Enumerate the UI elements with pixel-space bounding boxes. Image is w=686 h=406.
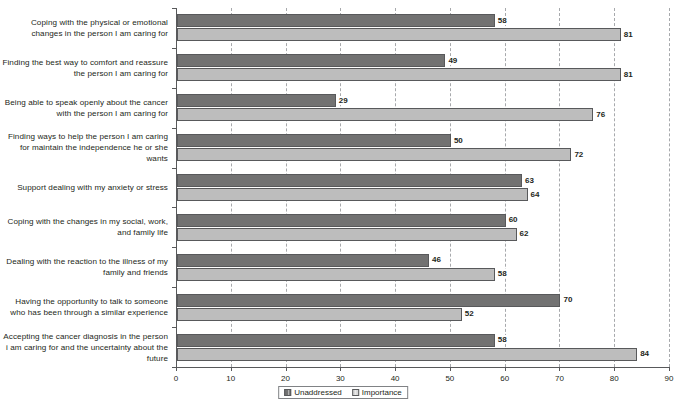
x-axis-tick — [450, 367, 451, 371]
category-label: Finding the best way to comfort and reas… — [0, 57, 168, 79]
bar-importance — [177, 148, 571, 161]
bar-value-label: 58 — [497, 16, 508, 25]
bar-importance — [177, 68, 621, 81]
bar-unaddressed — [177, 94, 336, 107]
y-axis-tick — [172, 207, 176, 208]
bar-value-label: 60 — [508, 215, 519, 224]
y-axis-tick — [172, 287, 176, 288]
bar-importance — [177, 188, 528, 201]
bar-unaddressed — [177, 134, 451, 147]
plot-area: 0102030405060708090 58814981297650726364… — [176, 8, 669, 367]
bar-unaddressed — [177, 14, 495, 27]
x-axis-tick-label: 10 — [226, 374, 235, 383]
bar-value-label: 58 — [497, 269, 508, 278]
bar-unaddressed — [177, 214, 506, 227]
category-label: Having the opportunity to talk to someon… — [0, 296, 168, 318]
bar-value-label: 72 — [573, 150, 584, 159]
legend-swatch-icon — [352, 389, 359, 396]
bar-importance — [177, 308, 462, 321]
bar-importance — [177, 28, 621, 41]
bar-value-label: 63 — [524, 176, 535, 185]
bar-value-label: 50 — [453, 136, 464, 145]
legend-label: Importance — [362, 388, 402, 397]
y-axis-tick — [172, 128, 176, 129]
category-label: Coping with the changes in my social, wo… — [0, 216, 168, 238]
legend-item-importance[interactable]: Importance — [352, 388, 402, 397]
category-label: Finding ways to help the person I am car… — [0, 131, 168, 164]
bar-importance — [177, 228, 517, 241]
x-axis-tick-label: 60 — [500, 374, 509, 383]
x-axis-tick — [505, 367, 506, 371]
y-axis-tick — [172, 48, 176, 49]
bar-importance — [177, 108, 593, 121]
bar-value-label: 58 — [497, 335, 508, 344]
y-axis-tick — [172, 88, 176, 89]
gridline — [669, 8, 670, 367]
bar-value-label: 29 — [338, 96, 349, 105]
x-axis-tick — [231, 367, 232, 371]
x-axis-tick — [614, 367, 615, 371]
category-label: Being able to speak openly about the can… — [0, 97, 168, 119]
category-label: Accepting the cancer diagnosis in the pe… — [0, 331, 168, 364]
x-axis-tick — [559, 367, 560, 371]
x-axis-tick — [669, 367, 670, 371]
y-axis-tick — [172, 367, 176, 368]
bar-unaddressed — [177, 294, 560, 307]
bar-value-label: 81 — [623, 70, 634, 79]
gridline — [559, 8, 560, 367]
x-axis-tick-label: 30 — [336, 374, 345, 383]
chart-legend: UnaddressedImportance — [278, 386, 408, 399]
bar-unaddressed — [177, 254, 429, 267]
x-axis-tick — [286, 367, 287, 371]
x-axis-tick — [176, 367, 177, 371]
bar-value-label: 76 — [595, 110, 606, 119]
y-axis-tick — [172, 247, 176, 248]
x-axis-tick-label: 70 — [555, 374, 564, 383]
bar-value-label: 64 — [530, 190, 541, 199]
bar-value-label: 84 — [639, 349, 650, 358]
legend-item-unaddressed[interactable]: Unaddressed — [284, 388, 342, 397]
bar-value-label: 70 — [562, 295, 573, 304]
category-axis-labels: Coping with the physical or emotional ch… — [0, 8, 172, 367]
category-label: Support dealing with my anxiety or stres… — [0, 182, 168, 193]
bar-value-label: 49 — [447, 56, 458, 65]
x-axis-tick-label: 50 — [445, 374, 454, 383]
bar-value-label: 62 — [519, 229, 530, 238]
category-label: Coping with the physical or emotional ch… — [0, 17, 168, 39]
x-axis-line — [176, 367, 669, 368]
legend-label: Unaddressed — [294, 388, 342, 397]
bar-value-label: 81 — [623, 30, 634, 39]
y-axis-tick — [172, 168, 176, 169]
x-axis-tick — [340, 367, 341, 371]
x-axis-tick-label: 20 — [281, 374, 290, 383]
legend-swatch-icon — [284, 389, 291, 396]
x-axis-tick-label: 40 — [391, 374, 400, 383]
x-axis-tick — [395, 367, 396, 371]
bar-value-label: 52 — [464, 309, 475, 318]
bar-chart: Coping with the physical or emotional ch… — [0, 0, 686, 406]
x-axis-tick-label: 80 — [610, 374, 619, 383]
bar-importance — [177, 348, 637, 361]
gridline — [614, 8, 615, 367]
bar-importance — [177, 268, 495, 281]
category-label: Dealing with the reaction to the illness… — [0, 256, 168, 278]
y-axis-tick — [172, 8, 176, 9]
bar-value-label: 46 — [431, 255, 442, 264]
x-axis-tick-label: 90 — [665, 374, 674, 383]
x-axis-tick-label: 0 — [174, 374, 178, 383]
bar-unaddressed — [177, 174, 522, 187]
bar-unaddressed — [177, 54, 445, 67]
bar-unaddressed — [177, 334, 495, 347]
y-axis-tick — [172, 327, 176, 328]
